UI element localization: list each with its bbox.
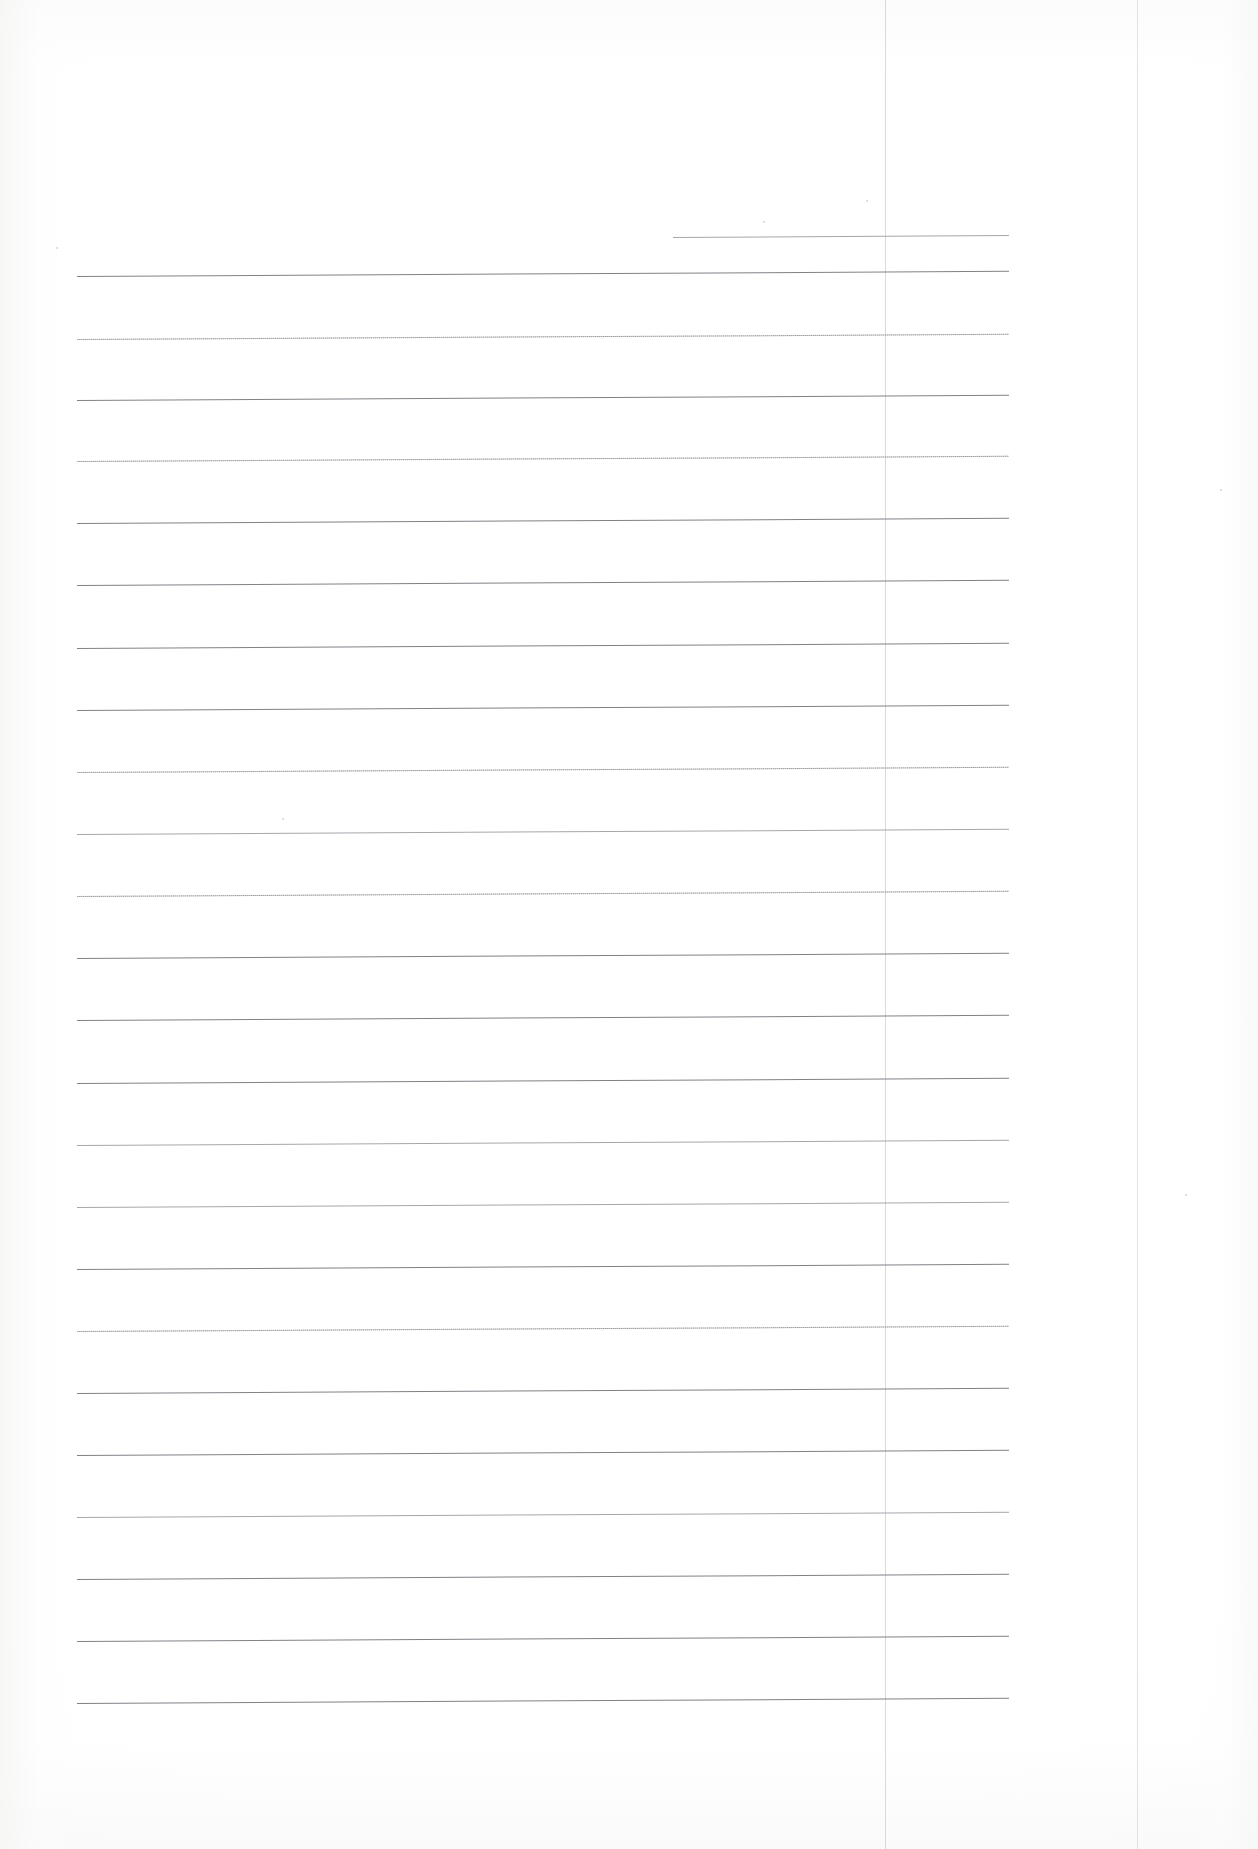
ruled-line-ink <box>77 1450 1009 1456</box>
ruled-line-ink <box>77 456 1009 462</box>
scan-speck <box>282 818 284 820</box>
ruled-line <box>77 767 1009 772</box>
ruled-line <box>77 1140 1009 1145</box>
paper-vignette-right <box>0 0 1258 1849</box>
ruled-line-ink <box>77 1202 1009 1208</box>
scan-speck <box>56 247 58 249</box>
ruled-line-ink <box>77 1388 1009 1394</box>
ruled-line <box>77 643 1009 648</box>
ruled-line <box>77 891 1009 896</box>
ruled-line <box>77 1015 1009 1020</box>
scanned-page <box>0 0 1258 1849</box>
ruled-line-ink <box>77 705 1009 711</box>
ruled-line <box>77 1264 1009 1269</box>
ruled-line-ink <box>77 395 1009 401</box>
paper-vignette-bottom <box>0 0 1258 1849</box>
ruled-line <box>77 1202 1009 1207</box>
ruled-line <box>77 271 1009 276</box>
ruled-line-ink <box>77 1698 1009 1704</box>
scan-speck <box>1220 489 1222 491</box>
ruled-line <box>673 235 1009 237</box>
ruled-line <box>77 829 1009 834</box>
vertical-guide-line <box>1137 0 1138 1849</box>
ruled-line <box>77 1450 1009 1455</box>
ruled-line-ink <box>77 580 1009 586</box>
ruled-line-ink <box>77 334 1009 340</box>
ruled-line-ink <box>77 643 1009 649</box>
ruled-line <box>77 1636 1009 1641</box>
ruled-line <box>77 1574 1009 1579</box>
ruled-line-ink <box>77 891 1009 897</box>
ruled-line <box>77 518 1009 523</box>
ruled-line <box>77 1512 1009 1517</box>
ruled-line-ink <box>673 235 1009 238</box>
ruled-line-ink <box>77 1140 1009 1146</box>
scan-speck <box>1185 1194 1187 1196</box>
ruled-line <box>77 395 1009 400</box>
ruled-line <box>77 334 1009 339</box>
ruled-line-ink <box>77 1636 1009 1642</box>
ruled-line-ink <box>77 1574 1009 1580</box>
ruled-line-ink <box>77 271 1009 277</box>
ruled-line-ink <box>77 767 1009 773</box>
paper-vignette-left <box>0 0 1258 1849</box>
ruled-line <box>77 1326 1009 1331</box>
ruled-line <box>77 705 1009 710</box>
ruled-line-ink <box>77 1264 1009 1270</box>
scan-speck <box>866 200 868 202</box>
ruled-line <box>77 1078 1009 1083</box>
ruled-line <box>77 580 1009 585</box>
ruled-line-ink <box>77 953 1009 959</box>
ruled-line <box>77 953 1009 958</box>
paper-vignette-top <box>0 0 1258 1849</box>
ruled-line-ink <box>77 518 1009 524</box>
scan-speck <box>763 221 765 223</box>
ruled-line-ink <box>77 1326 1009 1332</box>
ruled-line <box>77 1388 1009 1393</box>
vertical-guide-line <box>885 0 886 1849</box>
ruled-line <box>77 456 1009 461</box>
ruled-line <box>77 1698 1009 1703</box>
ruled-line-ink <box>77 1015 1009 1021</box>
ruled-line-ink <box>77 1512 1009 1518</box>
ruled-line-ink <box>77 1078 1009 1084</box>
ruled-line-ink <box>77 829 1009 835</box>
